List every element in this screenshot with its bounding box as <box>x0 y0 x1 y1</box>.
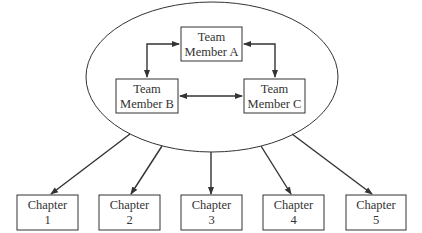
connector-a-c <box>244 44 275 77</box>
team-member-c-box: Team Member C <box>244 79 305 113</box>
chapter-5-box: Chapter 5 <box>346 195 406 230</box>
arrow-to-chapter-5 <box>292 134 372 194</box>
chapter-4-label: Chapter <box>274 198 314 212</box>
chapter-1-box: Chapter 1 <box>17 195 78 230</box>
team-member-c-line1: Team <box>261 82 289 96</box>
arrow-to-chapter-1 <box>51 134 130 194</box>
chapter-2-label: Chapter <box>110 198 150 212</box>
chapter-5-label: Chapter <box>356 198 396 212</box>
chapter-3-number: 3 <box>208 213 214 227</box>
team-member-b-line2: Member B <box>120 97 174 111</box>
team-chapters-diagram: Team Member A Team Member B Team Member … <box>0 0 422 233</box>
team-member-a-box: Team Member A <box>181 27 242 61</box>
chapter-2-box: Chapter 2 <box>99 195 160 230</box>
connector-a-b <box>147 44 179 77</box>
chapter-4-box: Chapter 4 <box>263 195 324 230</box>
chapter-2-number: 2 <box>126 213 132 227</box>
team-member-a-line2: Member A <box>185 45 239 59</box>
team-member-c-line2: Member C <box>248 97 302 111</box>
team-member-b-line1: Team <box>133 82 161 96</box>
arrow-to-chapter-4 <box>261 146 291 194</box>
team-member-a-line1: Team <box>198 30 226 44</box>
chapter-3-box: Chapter 3 <box>181 195 242 230</box>
chapter-1-label: Chapter <box>28 198 68 212</box>
arrow-to-chapter-2 <box>131 146 162 194</box>
team-group-ellipse <box>86 2 338 152</box>
team-member-b-box: Team Member B <box>116 79 178 113</box>
chapter-1-number: 1 <box>44 213 50 227</box>
chapter-5-number: 5 <box>373 213 379 227</box>
chapter-3-label: Chapter <box>192 198 232 212</box>
chapter-4-number: 4 <box>290 213 297 227</box>
